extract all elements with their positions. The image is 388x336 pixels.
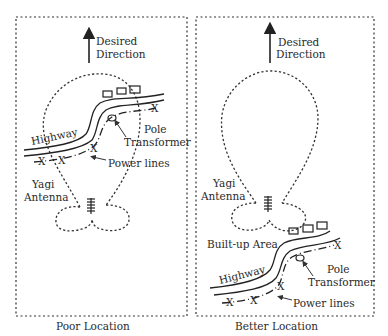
radiation-pattern-back-lobe-left — [56, 207, 92, 231]
buildings-icon — [289, 222, 327, 234]
yagi-antenna-icon — [264, 196, 272, 212]
radiation-pattern-back-lobe-right — [269, 203, 306, 231]
direction-label-line1: Desired — [278, 36, 320, 48]
power-lines-label: Power lines — [293, 297, 355, 309]
antenna-label-line2: Antenna — [23, 191, 69, 203]
pointer-arrow-icon — [93, 157, 106, 160]
x-marker: X — [334, 239, 342, 251]
pointer-arrow-icon — [304, 263, 313, 276]
x-marker: X — [277, 280, 285, 292]
x-marker: X — [250, 294, 258, 306]
panel-poor-location: Desired Direction Yagi Antenna Highway — [16, 17, 192, 332]
highway-label: Highway — [30, 125, 79, 147]
antenna-placement-diagram: Desired Direction Yagi Antenna Highway — [0, 0, 388, 336]
pointer-arrow-icon — [116, 122, 126, 137]
pole-label: Pole — [327, 263, 350, 275]
direction-label-line1: Desired — [96, 35, 138, 47]
x-marker: X — [226, 296, 234, 308]
transformer-label: Transformer — [308, 276, 376, 288]
x-marker: X — [151, 102, 159, 114]
antenna-label-line2: Antenna — [200, 190, 246, 202]
pointer-arrow-icon — [280, 297, 292, 300]
built-up-area-label: Built-up Area — [207, 238, 278, 250]
panel-better-location: Desired Direction Yagi Antenna Built-up … — [196, 17, 376, 332]
direction-label-line2: Direction — [96, 48, 146, 60]
buildings-icon — [103, 86, 140, 97]
x-marker: X — [90, 142, 98, 154]
radiation-pattern-back-lobe-left — [232, 203, 269, 230]
x-marker: X — [58, 154, 66, 166]
yagi-antenna-icon — [87, 198, 95, 214]
power-lines-label: Power lines — [108, 157, 170, 169]
caption-poor-location: Poor Location — [56, 320, 130, 332]
radiation-pattern-back-lobe-right — [92, 205, 129, 231]
antenna-label-line1: Yagi — [212, 177, 236, 189]
pole-transformer-icon — [296, 255, 304, 261]
radiation-pattern-main-lobe — [222, 71, 318, 203]
transformer-label: Transformer — [124, 136, 192, 148]
x-marker: X — [38, 155, 46, 167]
direction-label-line2: Direction — [276, 48, 326, 60]
pole-transformer-icon — [108, 115, 116, 121]
antenna-label-line1: Yagi — [31, 178, 55, 190]
pole-label: Pole — [144, 123, 167, 135]
caption-better-location: Better Location — [235, 320, 318, 332]
